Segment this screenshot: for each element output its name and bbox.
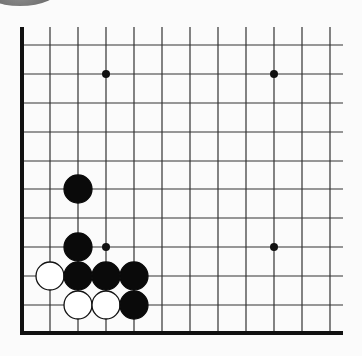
black-stone[interactable] [120,291,148,319]
black-stone[interactable] [64,233,92,261]
black-stone[interactable] [64,262,92,290]
go-board[interactable] [0,0,362,356]
black-stone[interactable] [64,175,92,203]
white-stone[interactable] [36,262,64,290]
star-point-icon [102,243,110,251]
white-stone[interactable] [64,291,92,319]
star-point-icon [270,243,278,251]
star-point-icon [270,70,278,78]
black-stone[interactable] [120,262,148,290]
white-stone[interactable] [92,291,120,319]
black-stone[interactable] [92,262,120,290]
star-point-icon [102,70,110,78]
